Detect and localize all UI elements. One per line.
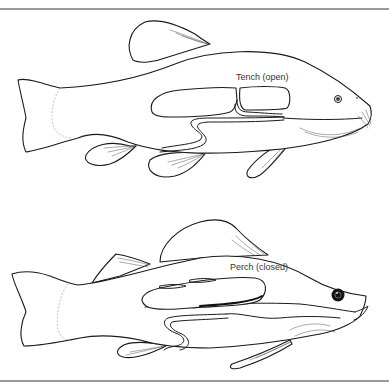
tench-figure: Tench (open) (18, 21, 371, 178)
perch-spiny-dorsal-fin (160, 220, 268, 262)
perch-label: Perch (closed) (230, 262, 288, 272)
tench-anal-fin (149, 153, 205, 177)
tench-nostril (356, 97, 358, 99)
tench-pelvic-fin-rear (86, 143, 136, 165)
tench-pupil (336, 97, 340, 101)
diagram-canvas: Tench (open) Perch (0, 0, 389, 385)
perch-figure: Perch (closed) (12, 220, 368, 369)
tench-swim-bladder-front-chamber (240, 87, 290, 111)
perch-eye (332, 289, 345, 302)
tench-label: Tench (open) (236, 72, 289, 82)
tench-dorsal-fin (129, 21, 210, 62)
